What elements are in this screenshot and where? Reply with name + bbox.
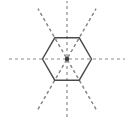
hexagon-symmetry-diagram <box>0 0 134 119</box>
center-point-dot <box>65 57 69 61</box>
figure-canvas <box>0 0 134 119</box>
